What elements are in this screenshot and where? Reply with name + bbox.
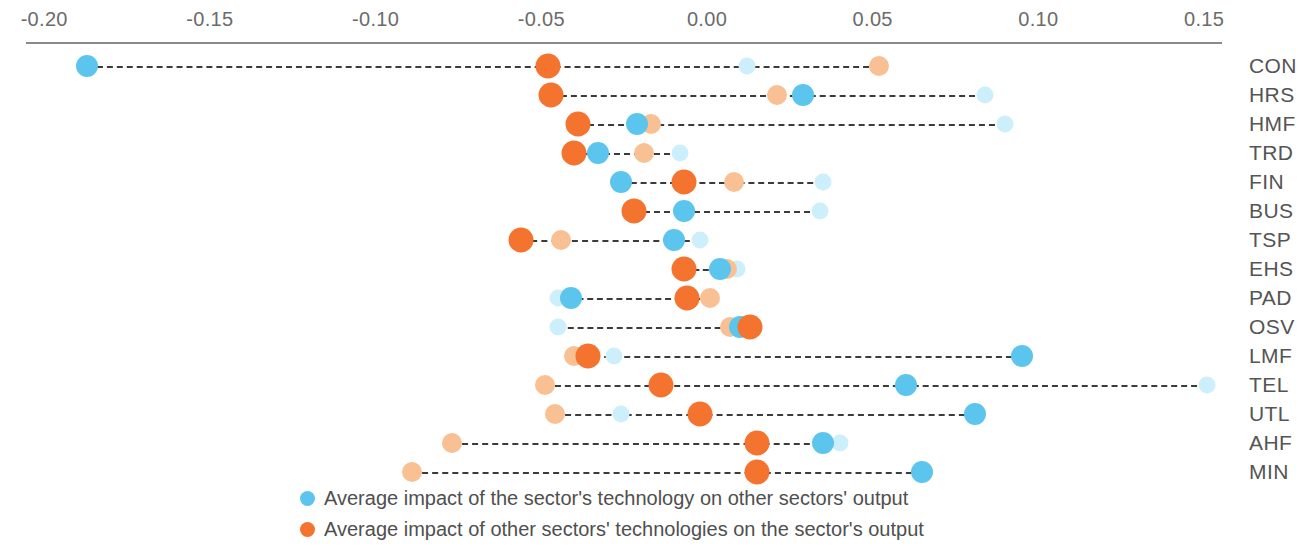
x-axis-tick-6: 0.10: [1018, 8, 1058, 31]
legend-item-blue: Average impact of the sector's technolog…: [300, 488, 908, 508]
category-label-osv: OSV: [1249, 313, 1295, 342]
chart-row: CON: [0, 52, 1310, 81]
x-axis-tick-labels: -0.20-0.15-0.10-0.050.000.050.100.15: [0, 0, 1310, 40]
data-point-inward-dark-orange: [648, 373, 673, 398]
data-point-inward-light-orange: [634, 143, 654, 163]
data-point-inward-light-orange: [442, 433, 462, 453]
chart-row: PAD: [0, 284, 1310, 313]
data-point-outward-light-blue: [692, 232, 709, 249]
row-connector-line: [545, 385, 1208, 387]
data-point-outward-light-blue: [977, 87, 994, 104]
chart-row: OSV: [0, 313, 1310, 342]
legend-item-orange: Average impact of other sectors' technol…: [300, 519, 924, 539]
chart-row: AHF: [0, 429, 1310, 458]
x-axis-tick-7: 0.15: [1184, 8, 1224, 31]
data-point-inward-dark-orange: [671, 257, 696, 282]
data-point-inward-dark-orange: [539, 83, 564, 108]
legend-label-orange: Average impact of other sectors' technol…: [324, 519, 924, 539]
data-point-outward-light-blue: [997, 116, 1014, 133]
category-label-fin: FIN: [1249, 168, 1284, 197]
x-axis-tick-2: -0.10: [352, 8, 399, 31]
data-point-outward-dark-blue: [964, 403, 986, 425]
data-point-inward-light-orange: [402, 462, 422, 482]
data-point-outward-dark-blue: [610, 171, 632, 193]
data-point-outward-light-blue: [612, 406, 629, 423]
data-point-inward-light-orange: [551, 230, 571, 250]
data-point-inward-dark-orange: [565, 112, 590, 137]
data-point-outward-light-blue: [814, 174, 831, 191]
category-label-min: MIN: [1249, 458, 1289, 487]
x-axis-line: [26, 42, 1222, 44]
data-point-inward-dark-orange: [562, 141, 587, 166]
category-label-pad: PAD: [1249, 284, 1292, 313]
data-point-outward-dark-blue: [1011, 345, 1033, 367]
row-connector-line: [574, 356, 1021, 358]
category-label-bus: BUS: [1249, 197, 1293, 226]
data-point-outward-light-blue: [811, 203, 828, 220]
x-axis-tick-1: -0.15: [186, 8, 233, 31]
data-point-outward-dark-blue: [626, 113, 648, 135]
chart-row: HRS: [0, 81, 1310, 110]
data-point-outward-light-blue: [1199, 377, 1216, 394]
row-connector-line: [621, 182, 823, 184]
data-point-inward-dark-orange: [688, 402, 713, 427]
data-point-inward-dark-orange: [575, 344, 600, 369]
chart-row: TRD: [0, 139, 1310, 168]
data-point-inward-dark-orange: [744, 431, 769, 456]
data-point-outward-dark-blue: [812, 432, 834, 454]
category-label-utl: UTL: [1249, 400, 1290, 429]
chart-row: UTL: [0, 400, 1310, 429]
chart-row: TSP: [0, 226, 1310, 255]
chart-row: HMF: [0, 110, 1310, 139]
data-point-inward-light-orange: [535, 375, 555, 395]
legend-swatch-orange-icon: [300, 522, 315, 537]
category-label-tsp: TSP: [1249, 226, 1291, 255]
data-point-inward-dark-orange: [738, 315, 763, 340]
row-connector-line: [634, 211, 820, 213]
legend-label-blue: Average impact of the sector's technolog…: [324, 488, 908, 508]
category-label-lmf: LMF: [1249, 342, 1292, 371]
legend: Average impact of the sector's technolog…: [0, 488, 1310, 555]
data-point-inward-dark-orange: [744, 460, 769, 485]
x-axis-tick-3: -0.05: [518, 8, 565, 31]
x-axis-tick-0: -0.20: [21, 8, 68, 31]
data-point-outward-light-blue: [738, 58, 755, 75]
data-point-inward-light-orange: [545, 404, 565, 424]
x-axis-tick-5: 0.05: [853, 8, 893, 31]
data-point-inward-dark-orange: [675, 286, 700, 311]
data-point-outward-light-blue: [672, 145, 689, 162]
category-label-hmf: HMF: [1249, 110, 1296, 139]
data-point-outward-dark-blue: [792, 84, 814, 106]
chart-row: EHS: [0, 255, 1310, 284]
data-point-outward-dark-blue: [895, 374, 917, 396]
data-point-inward-dark-orange: [535, 54, 560, 79]
row-connector-line: [412, 472, 922, 474]
data-point-inward-light-orange: [869, 56, 889, 76]
data-point-outward-dark-blue: [709, 258, 731, 280]
data-point-outward-dark-blue: [663, 229, 685, 251]
data-point-inward-light-orange: [767, 85, 787, 105]
chart-row: TEL: [0, 371, 1310, 400]
data-point-outward-light-blue: [549, 319, 566, 336]
category-label-ahf: AHF: [1249, 429, 1292, 458]
chart-row: FIN: [0, 168, 1310, 197]
data-point-outward-dark-blue: [76, 55, 98, 77]
data-point-outward-light-blue: [606, 348, 623, 365]
dumbbell-chart: -0.20-0.15-0.10-0.050.000.050.100.15 CON…: [0, 0, 1310, 555]
category-label-trd: TRD: [1249, 139, 1293, 168]
data-point-inward-light-orange: [700, 288, 720, 308]
row-connector-line: [87, 66, 879, 68]
data-point-outward-dark-blue: [587, 142, 609, 164]
data-point-inward-dark-orange: [622, 199, 647, 224]
data-point-outward-dark-blue: [911, 461, 933, 483]
data-point-outward-dark-blue: [560, 287, 582, 309]
category-label-tel: TEL: [1249, 371, 1289, 400]
data-point-inward-dark-orange: [671, 170, 696, 195]
category-label-hrs: HRS: [1249, 81, 1295, 110]
category-label-con: CON: [1249, 52, 1297, 81]
data-point-outward-dark-blue: [673, 200, 695, 222]
x-axis-tick-4: 0.00: [687, 8, 727, 31]
data-point-inward-light-orange: [724, 172, 744, 192]
category-label-ehs: EHS: [1249, 255, 1293, 284]
row-connector-line: [452, 443, 840, 445]
